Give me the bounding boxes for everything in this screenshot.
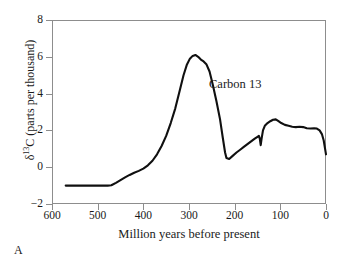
x-axis-tick-label: 600	[32, 209, 72, 221]
chart-plot-area	[52, 20, 326, 204]
panel-label: A	[14, 243, 23, 258]
x-axis-title: Million years before present	[52, 227, 326, 242]
series-annotation-carbon-13: Carbon 13	[209, 77, 261, 92]
figure-panel: 86420−2 6005004003002001000 δ13C (parts …	[0, 0, 347, 268]
x-axis-tick-label: 200	[215, 209, 255, 221]
x-axis-tick-label: 100	[260, 209, 300, 221]
x-axis-tick-label: 0	[306, 209, 346, 221]
x-axis-tick-label: 400	[123, 209, 163, 221]
y-axis-title-rest: C (parts per thousand)	[23, 40, 37, 147]
y-axis-title-superscript: 13	[22, 147, 31, 155]
y-axis-tick	[46, 57, 53, 58]
data-series-carbon-13	[66, 55, 326, 186]
x-axis-tick-label: 300	[169, 209, 209, 221]
y-axis-title: δ13C (parts per thousand)	[22, 10, 38, 190]
x-axis-tick-label: 500	[78, 209, 118, 221]
y-axis-tick	[46, 20, 53, 21]
y-axis-tick	[46, 130, 53, 131]
y-axis-title-delta: δ	[23, 155, 37, 161]
y-axis-tick-label: −2	[17, 198, 43, 210]
y-axis-tick	[46, 94, 53, 95]
y-axis-tick	[46, 167, 53, 168]
